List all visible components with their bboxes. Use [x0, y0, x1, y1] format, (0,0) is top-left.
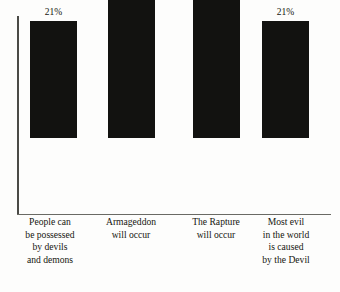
- category-label-line: in the world: [243, 229, 329, 242]
- category-label-line: will occur: [88, 229, 174, 242]
- category-label-line: by devils: [7, 241, 93, 254]
- x-axis-line: [17, 214, 331, 216]
- category-label: People canbe possessedby devilsand demon…: [7, 216, 93, 267]
- category-label-line: be possessed: [7, 229, 93, 242]
- bar[interactable]: [30, 21, 77, 138]
- category-label-line: Most evil: [243, 216, 329, 229]
- category-label-line: is caused: [243, 241, 329, 254]
- category-label-line: Armageddon: [88, 216, 174, 229]
- category-label: Most evilin the worldis causedby the Dev…: [243, 216, 329, 267]
- bar[interactable]: [262, 21, 309, 138]
- category-label-line: and demons: [7, 254, 93, 267]
- bar[interactable]: [193, 0, 240, 138]
- bar-value-label: 21%: [30, 7, 77, 18]
- bar[interactable]: [108, 0, 155, 138]
- category-axis: People canbe possessedby devilsand demon…: [0, 216, 340, 292]
- plot-area: 21% 30% 32% 21%: [0, 0, 340, 215]
- bar-value-label: 21%: [262, 7, 309, 18]
- bar-chart-figure: 21% 30% 32% 21% People canbe possessedby…: [0, 0, 340, 292]
- y-axis-line: [17, 16, 19, 215]
- category-label-line: People can: [7, 216, 93, 229]
- category-label: Armageddonwill occur: [88, 216, 174, 241]
- category-label-line: by the Devil: [243, 254, 329, 267]
